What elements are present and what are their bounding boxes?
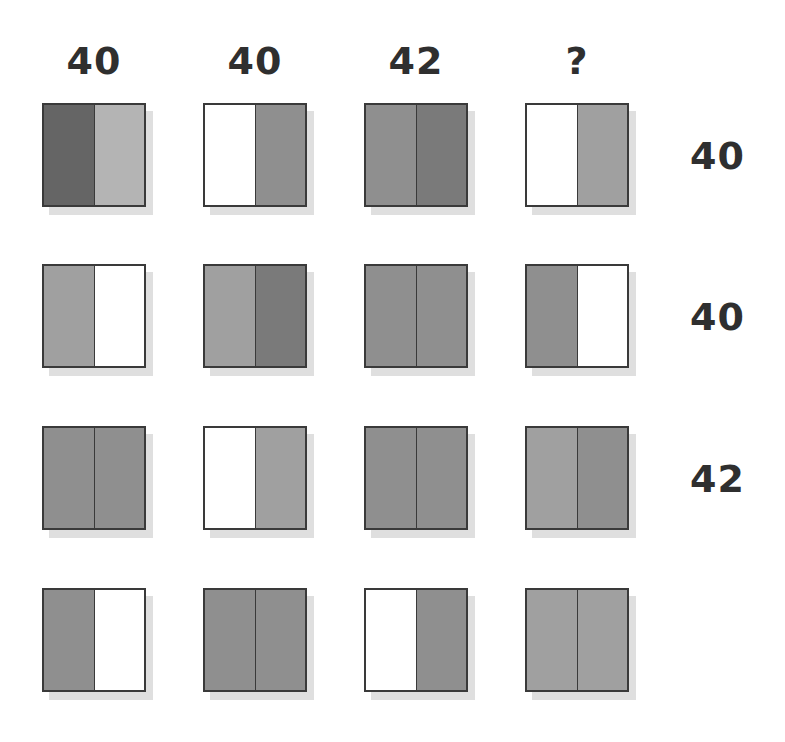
cell-half-left xyxy=(205,428,256,528)
cell-half-right xyxy=(578,590,628,690)
cell-r2c2[interactable] xyxy=(203,264,307,368)
cell-half-left xyxy=(44,266,95,366)
cell-r4c2[interactable] xyxy=(203,588,307,692)
cell-box xyxy=(525,426,629,530)
cell-half-left xyxy=(44,105,95,205)
cell-half-left xyxy=(205,266,256,366)
cell-box xyxy=(203,264,307,368)
cell-box xyxy=(364,264,468,368)
cell-box xyxy=(364,426,468,530)
cell-half-right xyxy=(578,105,628,205)
cell-half-right xyxy=(95,428,145,528)
column-header-4-unknown: ? xyxy=(512,42,642,80)
cell-half-left xyxy=(527,105,578,205)
column-header-2: 40 xyxy=(190,42,320,80)
cell-half-left xyxy=(366,428,417,528)
cell-r1c4[interactable] xyxy=(525,103,629,207)
cell-half-right xyxy=(578,428,628,528)
cell-half-left xyxy=(44,590,95,690)
cell-box xyxy=(203,103,307,207)
cell-r2c3[interactable] xyxy=(364,264,468,368)
cell-half-left xyxy=(366,105,417,205)
cell-r4c3[interactable] xyxy=(364,588,468,692)
column-header-1: 40 xyxy=(29,42,159,80)
puzzle-grid: 40 40 42 ? 40 40 42 xyxy=(0,0,785,742)
cell-box xyxy=(364,103,468,207)
cell-r3c2[interactable] xyxy=(203,426,307,530)
cell-box xyxy=(42,588,146,692)
cell-r3c1[interactable] xyxy=(42,426,146,530)
cell-r3c4[interactable] xyxy=(525,426,629,530)
cell-box xyxy=(525,103,629,207)
cell-half-left xyxy=(205,105,256,205)
cell-half-right xyxy=(256,590,306,690)
cell-half-left xyxy=(527,590,578,690)
row-label-1: 40 xyxy=(690,137,770,175)
cell-half-right xyxy=(256,105,306,205)
cell-half-left xyxy=(44,428,95,528)
cell-r1c1[interactable] xyxy=(42,103,146,207)
cell-half-left xyxy=(527,428,578,528)
cell-half-right xyxy=(417,428,467,528)
row-label-3: 42 xyxy=(690,460,770,498)
cell-box xyxy=(203,426,307,530)
cell-box xyxy=(42,103,146,207)
cell-half-right xyxy=(417,266,467,366)
column-header-3: 42 xyxy=(351,42,481,80)
cell-r4c4[interactable] xyxy=(525,588,629,692)
cell-r2c1[interactable] xyxy=(42,264,146,368)
cell-half-right xyxy=(578,266,628,366)
cell-half-left xyxy=(366,590,417,690)
cell-box xyxy=(42,426,146,530)
cell-half-right xyxy=(256,266,306,366)
cell-half-right xyxy=(256,428,306,528)
cell-half-right xyxy=(95,266,145,366)
cell-box xyxy=(42,264,146,368)
cell-r4c1[interactable] xyxy=(42,588,146,692)
cell-box xyxy=(525,264,629,368)
cell-half-left xyxy=(366,266,417,366)
cell-box xyxy=(364,588,468,692)
cell-box xyxy=(525,588,629,692)
cell-half-right xyxy=(95,105,145,205)
cell-half-right xyxy=(95,590,145,690)
row-label-2: 40 xyxy=(690,298,770,336)
cell-r3c3[interactable] xyxy=(364,426,468,530)
cell-r1c2[interactable] xyxy=(203,103,307,207)
cell-box xyxy=(203,588,307,692)
cell-r2c4[interactable] xyxy=(525,264,629,368)
cell-half-left xyxy=(527,266,578,366)
cell-half-right xyxy=(417,590,467,690)
cell-r1c3[interactable] xyxy=(364,103,468,207)
cell-half-left xyxy=(205,590,256,690)
cell-half-right xyxy=(417,105,467,205)
